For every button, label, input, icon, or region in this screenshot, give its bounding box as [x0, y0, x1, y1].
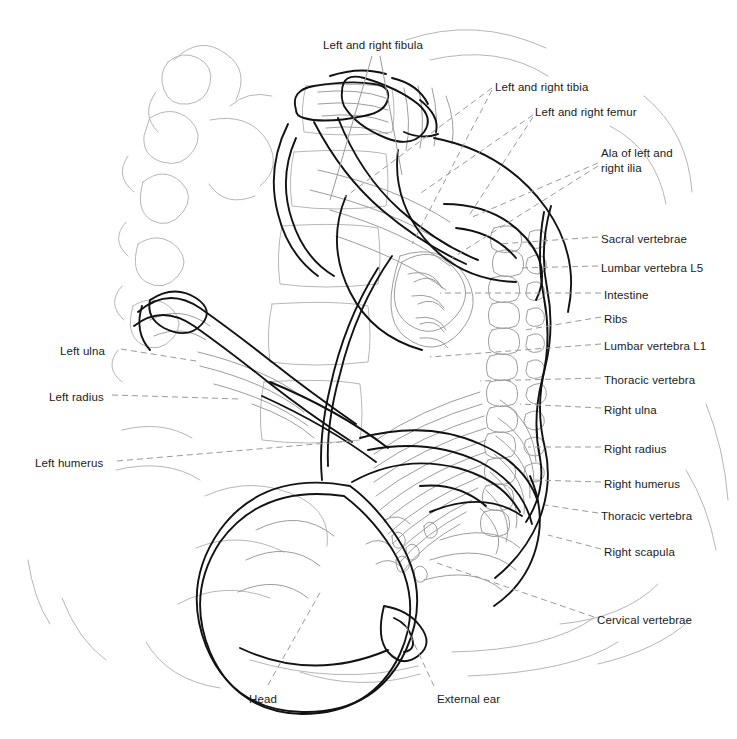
leader-line-thoracic-upper	[480, 378, 601, 381]
label-tibia: Left and right tibia	[495, 80, 588, 95]
label-femur: Left and right femur	[535, 105, 637, 120]
underlay-fetal-skeleton	[150, 86, 546, 598]
label-right-humerus: Right humerus	[604, 477, 680, 492]
leader-line-sacral	[498, 237, 598, 244]
label-left-radius: Left radius	[49, 390, 104, 405]
label-left-humerus: Left humerus	[35, 456, 103, 471]
leader-line-ilia-a	[470, 163, 598, 218]
leader-line-left-ulna	[121, 349, 196, 361]
traced-fetal-outline	[134, 70, 571, 714]
leader-line-thoracic-lower	[545, 505, 598, 513]
label-ribs: Ribs	[604, 312, 627, 327]
underlay-maternal-anatomy	[28, 30, 728, 688]
label-lumbar-l1: Lumbar vertebra L1	[604, 339, 706, 354]
label-right-radius: Right radius	[604, 442, 667, 457]
label-right-scapula: Right scapula	[604, 545, 675, 560]
leader-line-left-humerus	[117, 441, 352, 461]
leader-line-right-humerus	[532, 480, 601, 482]
leader-line-right-scapula	[548, 535, 601, 549]
leader-line-tibia-b	[412, 90, 492, 244]
label-intestine: Intestine	[604, 288, 648, 303]
leader-line-ilia-b	[452, 166, 598, 258]
leader-line-external-ear	[404, 622, 434, 686]
label-right-ulna: Right ulna	[604, 403, 657, 418]
leader-line-lumbar-l5	[518, 266, 598, 268]
label-fibula: Left and right fibula	[323, 38, 423, 53]
leader-line-femur-a	[418, 115, 533, 195]
label-external-ear: External ear	[437, 692, 500, 707]
leader-line-left-radius	[112, 395, 240, 399]
leader-line-lumbar-l1	[430, 344, 601, 357]
label-lumbar-l5: Lumbar vertebra L5	[601, 261, 703, 276]
leader-line-ribs	[525, 317, 601, 330]
leader-line-cervical	[437, 563, 594, 617]
label-thoracic-lower: Thoracic vertebra	[601, 509, 692, 524]
leader-line-right-ulna	[520, 404, 601, 408]
label-head: Head	[249, 692, 277, 707]
figure-canvas: Left and right fibulaLeft and right tibi…	[0, 0, 737, 739]
label-left-ulna: Left ulna	[60, 344, 105, 359]
label-cervical: Cervical vertebrae	[597, 613, 692, 628]
label-ilia: Ala of left and right ilia	[601, 146, 673, 175]
leader-line-fibula-b	[380, 56, 402, 175]
label-sacral: Sacral vertebrae	[601, 232, 687, 247]
label-thoracic-upper: Thoracic vertebra	[604, 373, 695, 388]
